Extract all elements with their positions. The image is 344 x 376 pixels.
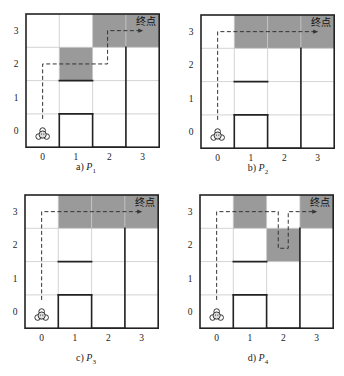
x-tick-label: 3: [139, 333, 144, 343]
y-tick-label: 1: [188, 274, 193, 284]
shaded-cell: [267, 228, 300, 261]
grid-map-d: 终点01230123: [172, 188, 344, 376]
x-tick-label: 1: [248, 333, 253, 343]
x-tick-label: 0: [39, 333, 44, 343]
robot-icon: [210, 309, 224, 321]
x-tick-label: 1: [73, 333, 78, 343]
robot-icon: [36, 128, 50, 140]
caption-sub: 3: [92, 358, 96, 366]
caption-label: a): [76, 161, 84, 172]
caption-d: d) P4: [172, 352, 344, 366]
caption-b: b) P2: [172, 162, 344, 176]
grid-map-b: 终点01230123: [172, 0, 344, 188]
caption-sub: 1: [92, 167, 96, 175]
goal-label: 终点: [310, 196, 330, 208]
y-tick-label: 1: [13, 274, 18, 284]
caption-sub: 4: [265, 358, 269, 366]
y-tick-label: 1: [14, 93, 19, 103]
robot-icon: [211, 129, 225, 141]
y-tick-label: 3: [188, 207, 193, 217]
caption-sub: 2: [265, 168, 269, 176]
y-tick-label: 0: [188, 307, 193, 317]
caption-label: b): [248, 162, 256, 173]
panel-d: 终点01230123 d) P4: [172, 188, 344, 376]
y-tick-label: 3: [13, 207, 18, 217]
y-tick-label: 2: [189, 60, 194, 70]
y-tick-label: 2: [14, 59, 19, 69]
goal-label: 终点: [136, 15, 156, 27]
x-tick-label: 2: [106, 333, 111, 343]
grid-map-a: 终点01230123: [0, 0, 172, 188]
grid-map-c: 终点01230123: [0, 188, 172, 376]
caption-c: c) P3: [0, 352, 172, 366]
robot-icon: [35, 309, 49, 321]
goal-label: 终点: [135, 196, 155, 208]
y-tick-label: 1: [189, 94, 194, 104]
y-tick-label: 3: [14, 26, 19, 36]
y-tick-label: 0: [189, 127, 194, 137]
y-tick-label: 0: [14, 126, 19, 136]
x-tick-label: 2: [281, 333, 286, 343]
goal-label: 终点: [311, 16, 331, 28]
caption-label: d): [248, 352, 256, 363]
panel-c: 终点01230123 c) P3: [0, 188, 172, 376]
y-tick-label: 2: [13, 240, 18, 250]
caption-label: c): [76, 352, 84, 363]
panel-b: 终点01230123 b) P2: [172, 0, 344, 188]
caption-a: a) P1: [0, 161, 172, 175]
y-tick-label: 2: [188, 240, 193, 250]
panel-a: 终点01230123 a) P1: [0, 0, 172, 188]
y-tick-label: 0: [13, 307, 18, 317]
x-tick-label: 0: [214, 333, 219, 343]
y-tick-label: 3: [189, 27, 194, 37]
x-tick-label: 3: [314, 333, 319, 343]
